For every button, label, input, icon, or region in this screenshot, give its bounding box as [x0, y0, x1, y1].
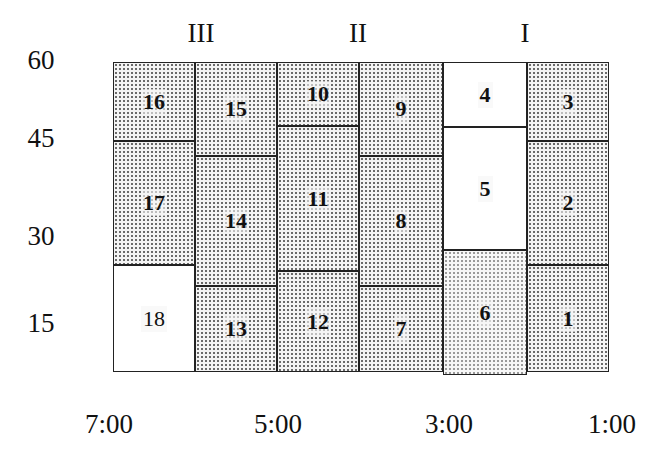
cell-3: 3 [527, 62, 609, 141]
x-axis-label: 3:00 [425, 411, 473, 438]
group-label: II [349, 20, 367, 47]
cell-15: 15 [195, 62, 277, 156]
cell-16: 16 [113, 62, 195, 141]
cell-label: 16 [141, 89, 167, 115]
cell-label: 5 [478, 176, 493, 202]
cell-label: 4 [478, 82, 493, 108]
cell-2: 2 [527, 141, 609, 265]
cell-label: 6 [478, 300, 493, 326]
cell-8: 8 [359, 156, 443, 286]
cell-label: 9 [394, 96, 409, 122]
cell-label: 12 [305, 309, 331, 335]
cell-6: 6 [443, 250, 527, 375]
cell-1: 1 [527, 265, 609, 372]
cell-label: 2 [561, 190, 576, 216]
cell-label: 14 [223, 208, 249, 234]
x-axis-label: 1:00 [588, 411, 636, 438]
cell-label: 18 [141, 306, 167, 332]
cell-10: 10 [277, 62, 359, 126]
cell-label: 17 [141, 190, 167, 216]
y-axis-label: 15 [28, 310, 55, 337]
cell-label: 8 [394, 208, 409, 234]
cell-13: 13 [195, 286, 277, 372]
cell-label: 7 [394, 316, 409, 342]
cell-label: 3 [561, 89, 576, 115]
cell-label: 11 [306, 186, 331, 212]
cell-17: 17 [113, 141, 195, 265]
x-axis-label: 5:00 [254, 411, 302, 438]
y-axis-label: 60 [28, 47, 55, 74]
cell-label: 13 [223, 316, 249, 342]
x-axis-label: 7:00 [85, 411, 133, 438]
cell-12: 12 [277, 271, 359, 372]
cell-5: 5 [443, 127, 527, 250]
y-axis-label: 45 [28, 125, 55, 152]
cell-label: 15 [223, 96, 249, 122]
cell-11: 11 [277, 126, 359, 271]
cell-7: 7 [359, 286, 443, 372]
group-label: III [188, 20, 215, 47]
group-label: I [521, 20, 530, 47]
cell-18: 18 [113, 265, 195, 372]
cell-9: 9 [359, 62, 443, 156]
cell-4: 4 [443, 62, 527, 127]
cell-14: 14 [195, 156, 277, 286]
cell-label: 1 [561, 306, 576, 332]
y-axis-label: 30 [28, 223, 55, 250]
cell-label: 10 [305, 81, 331, 107]
